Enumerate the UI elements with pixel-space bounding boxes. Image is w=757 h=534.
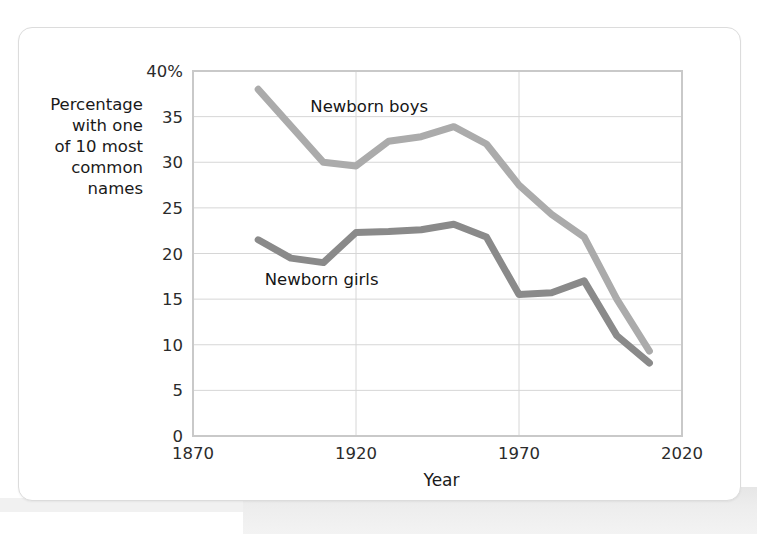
series-lines <box>258 89 649 363</box>
series-line-newborn-boys <box>258 89 649 351</box>
figure-card: Percentage with one of 10 most common na… <box>18 27 741 501</box>
gridlines <box>193 71 682 436</box>
line-chart: Percentage with one of 10 most common na… <box>19 28 740 500</box>
series-label-newborn-girls: Newborn girls <box>265 270 379 289</box>
x-axis-title: Year <box>19 470 740 490</box>
series-label-newborn-boys: Newborn boys <box>310 97 428 116</box>
